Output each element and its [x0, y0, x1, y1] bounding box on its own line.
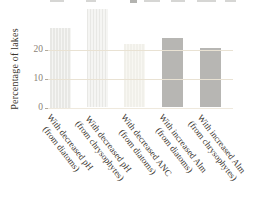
bar-chart-figure: Percentage of lakes 01020With decreased …: [0, 0, 267, 219]
x-axis-baseline: [48, 108, 233, 109]
plot-area: 01020With decreased pH(from diatoms)With…: [0, 0, 267, 219]
bar-4: [162, 38, 183, 108]
y-tick-label-20: 20: [12, 44, 43, 54]
bar-2: [87, 9, 108, 108]
gridline-20: [48, 50, 233, 51]
gridline-10: [48, 79, 233, 80]
bar-1: [50, 28, 71, 108]
bar-3: [124, 44, 145, 108]
y-tick-label-10: 10: [12, 73, 43, 83]
y-tick-label-0: 0: [12, 102, 43, 112]
